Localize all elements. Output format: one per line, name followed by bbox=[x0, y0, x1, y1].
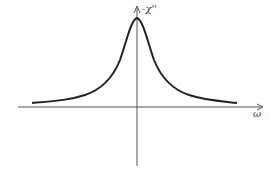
x-axis-label: ω bbox=[253, 108, 261, 119]
plot-canvas bbox=[0, 0, 276, 175]
y-axis-label: -χ'' bbox=[142, 3, 157, 14]
lorentzian-curve bbox=[32, 18, 237, 103]
diagram: -χ'' ω bbox=[0, 0, 276, 175]
